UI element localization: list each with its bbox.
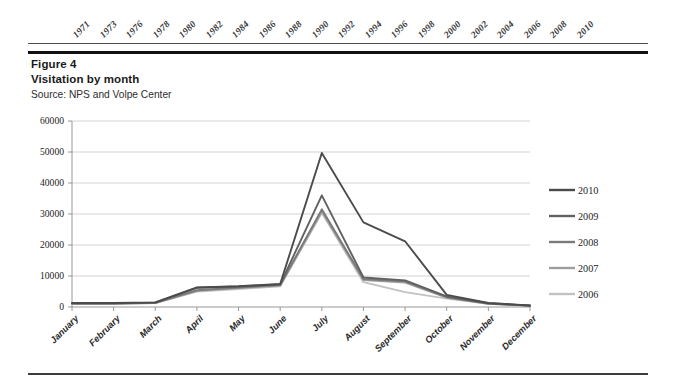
year-tick-label: 2002 [469, 19, 490, 40]
x-axis-month-label: March [137, 313, 163, 339]
year-tick-label: 1982 [204, 19, 225, 40]
chart-canvas: 0100002000030000400005000060000 JanuaryF… [0, 104, 676, 369]
year-tick-label: 2006 [522, 19, 543, 40]
x-axis-month-label: December [500, 313, 539, 352]
year-tick-label: 2008 [548, 19, 569, 40]
figure-caption: Figure 4 Visitation by month Source: NPS… [31, 57, 451, 102]
x-axis-month-label: November [458, 313, 497, 352]
x-axis-month-label: January [48, 313, 81, 346]
year-tick-label: 1992 [336, 19, 357, 40]
legend-label-2007: 2007 [578, 263, 598, 274]
y-axis-tick-label: 60000 [40, 115, 64, 126]
series-line-2008 [72, 209, 530, 305]
series-line-2010 [72, 153, 530, 306]
legend-label-2010: 2010 [578, 185, 598, 196]
year-tick-label: 1978 [151, 19, 172, 40]
chart-legend: 20102009200820072006 [549, 185, 598, 300]
series-line-2007 [72, 212, 530, 306]
x-axis-labels: JanuaryFebruaryMarchAprilMayJuneJulyAugu… [48, 307, 538, 354]
divider-rule-thin-top [28, 43, 648, 44]
legend-label-2009: 2009 [578, 211, 598, 222]
year-tick-label: 1976 [124, 19, 145, 40]
legend-label-2008: 2008 [578, 237, 598, 248]
x-axis-month-label: July [310, 313, 331, 334]
series-line-2006 [72, 213, 530, 306]
y-axis-tick-label: 10000 [40, 270, 64, 281]
year-axis-strip: 1971197319761978198019821984198619881990… [0, 0, 676, 44]
grid-layer [68, 121, 530, 307]
y-axis-tick-label: 0 [59, 301, 64, 312]
divider-rule-thick-top [28, 51, 648, 54]
figure-title: Visitation by month [31, 72, 451, 87]
visitation-by-month-chart: 0100002000030000400005000060000 JanuaryF… [0, 104, 676, 369]
year-tick-label: 2000 [442, 19, 463, 40]
y-axis-tick-label: 40000 [40, 177, 64, 188]
year-tick-label: 1998 [416, 19, 437, 40]
y-axis-labels: 0100002000030000400005000060000 [40, 115, 64, 312]
x-axis-month-label: October [423, 313, 455, 345]
y-axis-tick-label: 50000 [40, 146, 64, 157]
x-axis-month-label: February [87, 313, 123, 349]
x-axis-month-label: May [227, 313, 247, 333]
x-axis-month-label: August [342, 313, 373, 344]
series-lines [72, 153, 530, 306]
year-tick-label: 1971 [71, 19, 92, 40]
year-tick-label: 1988 [283, 19, 304, 40]
legend-label-2006: 2006 [578, 289, 598, 300]
divider-rule-bottom [28, 373, 648, 375]
year-tick-label: 1990 [310, 19, 331, 40]
y-axis-tick-label: 30000 [40, 208, 64, 219]
year-tick-label: 1973 [97, 19, 118, 40]
year-tick-label: 1996 [389, 19, 410, 40]
y-axis-tick-label: 20000 [40, 239, 64, 250]
figure-source: Source: NPS and Volpe Center [31, 86, 451, 102]
figure-number: Figure 4 [31, 57, 451, 72]
year-tick-label: 2004 [495, 19, 516, 40]
year-tick-label: 1980 [177, 19, 198, 40]
year-tick-label: 1986 [257, 19, 278, 40]
year-tick-label: 1994 [363, 19, 384, 40]
x-axis-month-label: April [183, 313, 206, 336]
x-axis-month-label: June [266, 313, 288, 335]
x-axis-month-label: September [373, 313, 414, 354]
year-tick-label: 2010 [575, 19, 596, 40]
year-tick-label: 1984 [230, 19, 251, 40]
